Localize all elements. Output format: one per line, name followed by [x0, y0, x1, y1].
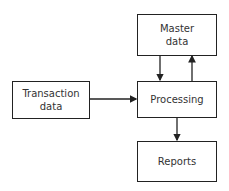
master-data-label-line1: Master	[160, 23, 194, 34]
reports-box: Reports	[137, 141, 217, 182]
master-data-label-line2: data	[166, 36, 189, 47]
transaction-data-box: Transactiondata	[12, 81, 90, 119]
transaction-data-label-line2: data	[40, 101, 63, 112]
processing-box: Processing	[137, 81, 217, 118]
transaction-data-label-line1: Transaction	[22, 88, 79, 99]
reports-label: Reports	[158, 155, 196, 168]
master-data-box: Masterdata	[137, 14, 217, 56]
processing-label: Processing	[150, 93, 203, 106]
